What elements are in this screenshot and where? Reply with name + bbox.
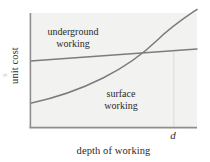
surface-working-label-line1: surface [107, 88, 136, 99]
x-axis-label: depth of working [30, 145, 197, 156]
figure: unit cost depth of working underground w… [0, 0, 210, 162]
cropped-edge-glyph: s [0, 71, 9, 80]
underground-working-label: underground working [33, 26, 113, 51]
surface-working-label-line2: working [104, 100, 137, 111]
underground-working-label-line1: underground [48, 26, 99, 37]
surface-working-label: surface working [92, 88, 150, 113]
underground-working-label-line2: working [56, 38, 89, 49]
y-axis-label: unit cost [9, 39, 20, 93]
crossover-depth-marker: d [166, 129, 180, 141]
